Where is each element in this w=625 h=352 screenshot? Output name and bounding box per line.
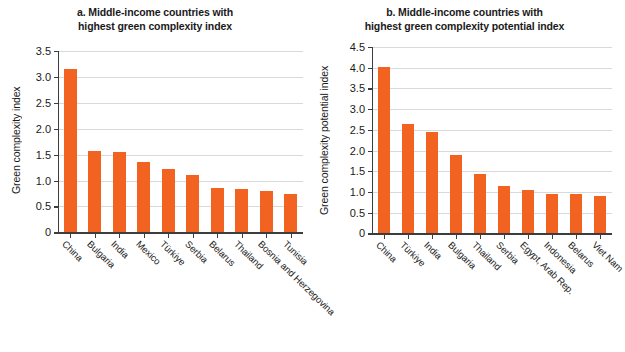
x-axis-category-label: Türkiye <box>158 239 187 268</box>
x-axis-category-label: Serbia <box>183 239 209 265</box>
panel-b-x-axis-labels: ChinaTürkiyeIndiaBulgariaThailandSerbiaE… <box>310 0 619 352</box>
x-axis-category-label: China <box>60 239 85 263</box>
x-axis-category-label: Viet Nam <box>590 240 625 274</box>
x-axis-category-label: Belarus <box>207 239 237 268</box>
x-axis-category-label: Mexico <box>134 239 162 267</box>
x-axis-category-label: Türkiye <box>398 240 427 269</box>
chart-panel-b: b. Middle-income countries with highest … <box>310 0 619 352</box>
x-axis-category-label: China <box>374 240 399 264</box>
chart-panel-a: a. Middle-income countries with highest … <box>0 0 310 352</box>
panel-a-x-axis-labels: ChinaBulgariaIndiaMexicoTürkiyeSerbiaBel… <box>0 0 310 352</box>
